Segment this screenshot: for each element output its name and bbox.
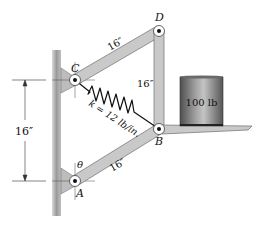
dimension-label: 16″ [15, 125, 33, 138]
linkage-diagram: 16″ 100 lb k = 12 lb/in. C [0, 0, 263, 230]
angle-theta: θ [77, 159, 83, 170]
member-cd [73, 26, 161, 85]
member-ab [73, 124, 161, 186]
wall [52, 50, 61, 216]
platform [159, 125, 252, 134]
label-b: B [154, 135, 163, 148]
label-a: A [75, 187, 84, 200]
pin-c [70, 75, 81, 86]
load-label: 100 lb [186, 97, 218, 108]
pin-b [154, 124, 165, 135]
label-c: C [71, 62, 80, 75]
pin-d [154, 26, 165, 37]
member-db [154, 31, 164, 129]
length-db: 16″ [137, 78, 154, 89]
pin-a [70, 176, 81, 187]
spring-label: k = 12 lb/in. [87, 97, 143, 139]
label-d: D [154, 11, 164, 24]
